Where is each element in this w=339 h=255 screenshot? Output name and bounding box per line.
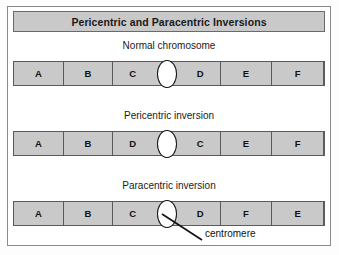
- chromosome-segment-label: B: [85, 69, 92, 79]
- chromosome-segment-label: E: [243, 139, 249, 149]
- chromosome-segment: F: [272, 62, 324, 85]
- chromosome-segment: E: [221, 62, 273, 85]
- chromosome-caption-pericentric: Pericentric inversion: [13, 110, 325, 121]
- chromosome-segment-label: A: [35, 209, 42, 219]
- chromosome-segment-label: C: [129, 69, 136, 79]
- chromosome-segment-label: F: [243, 209, 249, 219]
- chromosome-segment-label: F: [295, 139, 301, 149]
- figure-title-bar: Pericentric and Paracentric Inversions: [13, 11, 325, 32]
- chromosome-segment-label: A: [35, 69, 42, 79]
- chromosome-segment-label: E: [294, 209, 300, 219]
- chromosome-segment: A: [14, 132, 64, 155]
- figure-title: Pericentric and Paracentric Inversions: [71, 16, 266, 28]
- chromosome-segment-label: D: [197, 69, 204, 79]
- chromosome-segment: E: [221, 132, 273, 155]
- chromosome-segment-label: C: [129, 209, 136, 219]
- chromosome-caption-paracentric: Paracentric inversion: [13, 180, 325, 191]
- chromosome-segment: E: [272, 202, 324, 225]
- chromosome-bar-pericentric: ABDCEF: [13, 131, 325, 156]
- chromosome-segment-label: C: [197, 139, 204, 149]
- centromere-annotation-label: centromere: [205, 228, 256, 239]
- chromosome-segment-label: B: [85, 209, 92, 219]
- chromosome-segment: F: [272, 132, 324, 155]
- chromosome-caption-normal: Normal chromosome: [13, 40, 325, 51]
- chromosome-segment-label: B: [85, 139, 92, 149]
- inversion-diagram-figure: Pericentric and Paracentric Inversions N…: [0, 0, 339, 255]
- chromosome-segment-label: E: [243, 69, 249, 79]
- chromosome-segment: A: [14, 62, 64, 85]
- chromosome-segment-label: F: [295, 69, 301, 79]
- centromere-marker: [157, 130, 177, 158]
- centromere-marker: [157, 60, 177, 88]
- chromosome-segment: B: [64, 132, 114, 155]
- chromosome-segment: B: [64, 202, 114, 225]
- chromosome-segment-label: A: [35, 139, 42, 149]
- chromosome-bar-normal: ABCDEF: [13, 61, 325, 86]
- chromosome-segment: A: [14, 202, 64, 225]
- chromosome-segment-label: D: [129, 139, 136, 149]
- chromosome-segment: B: [64, 62, 114, 85]
